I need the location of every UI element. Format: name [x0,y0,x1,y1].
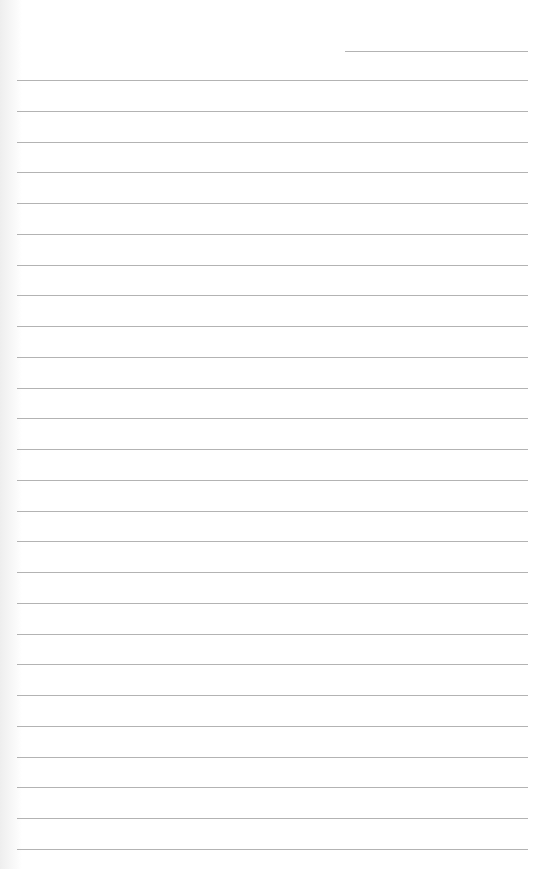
ruled-line [17,603,528,604]
ruled-line [17,757,528,758]
left-edge-shadow [0,0,22,869]
ruled-line [17,357,528,358]
ruled-line [17,265,528,266]
ruled-line [17,203,528,204]
ruled-line [17,111,528,112]
ruled-line [17,418,528,419]
header-line [345,51,528,52]
ruled-line [17,572,528,573]
ruled-line [17,849,528,850]
ruled-line [17,388,528,389]
ruled-line [17,664,528,665]
ruled-line [17,726,528,727]
ruled-line [17,541,528,542]
ruled-line [17,326,528,327]
ruled-line [17,511,528,512]
ruled-line [17,172,528,173]
ruled-line [17,787,528,788]
ruled-line [17,142,528,143]
ruled-line [17,295,528,296]
ruled-line [17,80,528,81]
ruled-line [17,818,528,819]
ruled-line [17,695,528,696]
ruled-line [17,449,528,450]
ruled-line [17,634,528,635]
ruled-line [17,480,528,481]
ruled-line [17,234,528,235]
